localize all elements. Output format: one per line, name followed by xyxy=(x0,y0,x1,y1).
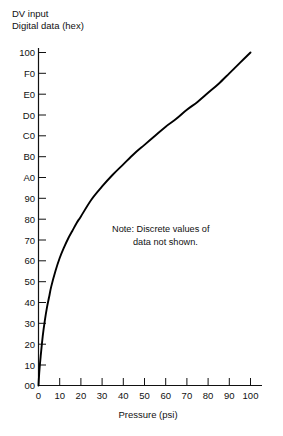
y-tick-label: 10 xyxy=(24,360,35,371)
y-tick-label: B0 xyxy=(23,151,35,162)
y-tick-label: 90 xyxy=(24,193,35,204)
y-tick-label: 30 xyxy=(24,318,35,329)
x-tick-marks xyxy=(39,378,251,386)
y-tick-label: 80 xyxy=(24,214,35,225)
plot-area: 100 F0 E0 D0 C0 B0 A0 90 80 70 60 50 40 … xyxy=(0,0,283,436)
data-curve xyxy=(39,53,251,386)
x-tick-label: 100 xyxy=(243,390,259,401)
x-tick-label: 90 xyxy=(224,390,235,401)
y-tick-label: A0 xyxy=(23,172,35,183)
x-axis-title: Pressure (psi) xyxy=(118,409,177,420)
x-tick-label: 50 xyxy=(139,390,150,401)
note-line-2: data not shown. xyxy=(133,237,198,247)
y-tick-label: 00 xyxy=(24,380,35,391)
y-tick-label: 20 xyxy=(24,339,35,350)
y-tick-labels: 100 F0 E0 D0 C0 B0 A0 90 80 70 60 50 40 … xyxy=(19,47,35,391)
y-tick-label: 50 xyxy=(24,276,35,287)
y-tick-label: 40 xyxy=(24,297,35,308)
x-tick-label: 30 xyxy=(97,390,108,401)
y-tick-label: 100 xyxy=(19,47,35,58)
y-tick-label: D0 xyxy=(23,110,35,121)
x-tick-label: 60 xyxy=(160,390,171,401)
y-tick-label: C0 xyxy=(23,130,35,141)
discrete-values-note: Note: Discrete values of data not shown. xyxy=(112,224,210,247)
x-tick-label: 70 xyxy=(182,390,193,401)
x-tick-labels: 0 10 20 30 40 50 60 70 80 90 100 xyxy=(36,390,259,401)
note-line-1: Note: Discrete values of xyxy=(112,224,210,234)
y-tick-label: E0 xyxy=(23,89,35,100)
x-tick-label: 80 xyxy=(203,390,214,401)
x-tick-label: 40 xyxy=(118,390,129,401)
x-tick-label: 10 xyxy=(54,390,65,401)
x-tick-label: 20 xyxy=(76,390,87,401)
x-tick-label: 0 xyxy=(36,390,41,401)
y-tick-label: 70 xyxy=(24,235,35,246)
y-tick-label: 60 xyxy=(24,255,35,266)
y-tick-label: F0 xyxy=(24,68,35,79)
chart-figure: DV input Digital data (hex) xyxy=(0,0,283,436)
